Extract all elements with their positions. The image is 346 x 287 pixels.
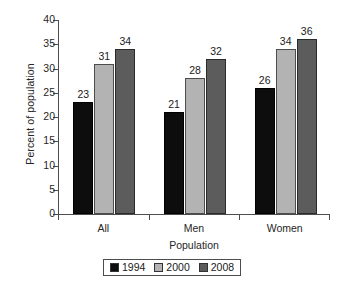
bar-men-1994 <box>164 112 184 214</box>
y-tick-label: 10 <box>43 159 55 171</box>
y-tick-label: 0 <box>49 207 55 219</box>
x-axis-line <box>58 214 330 215</box>
y-tick-label: 25 <box>43 86 55 98</box>
legend-swatch-icon <box>199 263 208 272</box>
y-tick-label: 20 <box>43 110 55 122</box>
group-label-men: Men <box>149 222 240 234</box>
group-label-all: All <box>58 222 149 234</box>
group-label-women: Women <box>239 222 330 234</box>
bars-layer: 233134212832263436 <box>59 20 330 214</box>
y-tick-label: 5 <box>49 183 55 195</box>
y-tick-label: 30 <box>43 62 55 74</box>
bar-chart-figure: Percent of population 0510152025303540 2… <box>0 0 346 287</box>
bar-men-2008 <box>206 59 226 214</box>
legend-label: 2008 <box>211 262 234 273</box>
x-tick-mark <box>149 215 150 220</box>
x-axis-title: Population <box>58 239 330 251</box>
x-tick-mark <box>58 215 59 220</box>
bar-women-2000 <box>276 49 296 214</box>
legend-label: 1994 <box>122 262 145 273</box>
legend-swatch-icon <box>154 263 163 272</box>
y-axis-title: Percent of population <box>24 24 36 204</box>
x-tick-mark <box>329 215 330 220</box>
bar-value-label: 32 <box>200 45 232 57</box>
y-tick-label: 15 <box>43 134 55 146</box>
legend-item-2000: 2000 <box>154 262 189 273</box>
bar-men-2000 <box>185 78 205 214</box>
bar-all-1994 <box>73 102 93 214</box>
y-tick-label: 40 <box>43 13 55 25</box>
y-tick-label: 35 <box>43 37 55 49</box>
legend-item-2008: 2008 <box>199 262 234 273</box>
bar-value-label: 36 <box>291 25 323 37</box>
bar-all-2008 <box>115 49 135 214</box>
bar-women-2008 <box>297 39 317 214</box>
legend-item-1994: 1994 <box>110 262 145 273</box>
chart-legend: 199420002008 <box>103 259 241 276</box>
legend-label: 2000 <box>166 262 189 273</box>
bar-all-2000 <box>94 64 114 214</box>
x-tick-mark <box>239 215 240 220</box>
legend-swatch-icon <box>110 263 119 272</box>
plot-area: 0510152025303540 233134212832263436 <box>58 20 330 214</box>
bar-value-label: 34 <box>109 35 141 47</box>
bar-women-1994 <box>255 88 275 214</box>
